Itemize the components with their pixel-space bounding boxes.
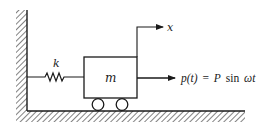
mass-label-m: m bbox=[105, 71, 116, 85]
displacement-arrow bbox=[137, 27, 163, 57]
spring bbox=[27, 73, 84, 81]
force-equals: = bbox=[202, 72, 209, 84]
force-argument: ωt bbox=[244, 72, 256, 84]
wall-hatching bbox=[16, 10, 27, 111]
floor-hatching bbox=[16, 111, 245, 122]
force-amplitude: P bbox=[213, 72, 221, 84]
force-lhs: p(t) bbox=[180, 72, 198, 85]
spring-mass-diagram: k m x p(t) = P sin ωt bbox=[0, 0, 260, 134]
wheel-left bbox=[92, 99, 104, 111]
wheel-right bbox=[116, 99, 128, 111]
spring-label-k: k bbox=[53, 57, 60, 70]
displacement-label-x: x bbox=[167, 21, 174, 34]
force-sin: sin bbox=[226, 72, 240, 84]
force-equation: p(t) = P sin ωt bbox=[180, 72, 256, 85]
